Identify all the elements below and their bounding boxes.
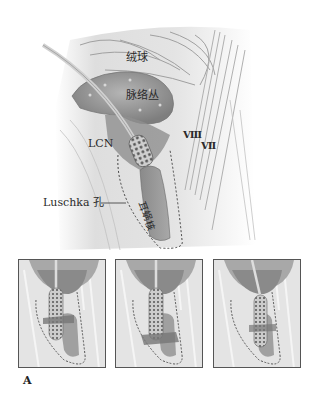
panel-3: [213, 259, 301, 368]
main-illustration: [0, 0, 320, 250]
panel-3-illustration: [214, 260, 301, 368]
panel-2-illustration: [116, 260, 203, 368]
label-cn-vii: Ⅶ: [201, 141, 216, 151]
label-choroid-plexus: 脉络丛: [126, 90, 159, 101]
label-lcn: LCN: [88, 138, 113, 149]
label-foramen-luschka: Luschka 孔: [43, 197, 104, 208]
label-cn-viii: Ⅷ: [183, 130, 202, 140]
panel-2: [115, 259, 203, 368]
label-flocculus: 绒球: [126, 52, 148, 63]
panel-1-illustration: [19, 260, 106, 368]
figure-label: A: [23, 374, 32, 387]
panel-1: [18, 259, 106, 368]
